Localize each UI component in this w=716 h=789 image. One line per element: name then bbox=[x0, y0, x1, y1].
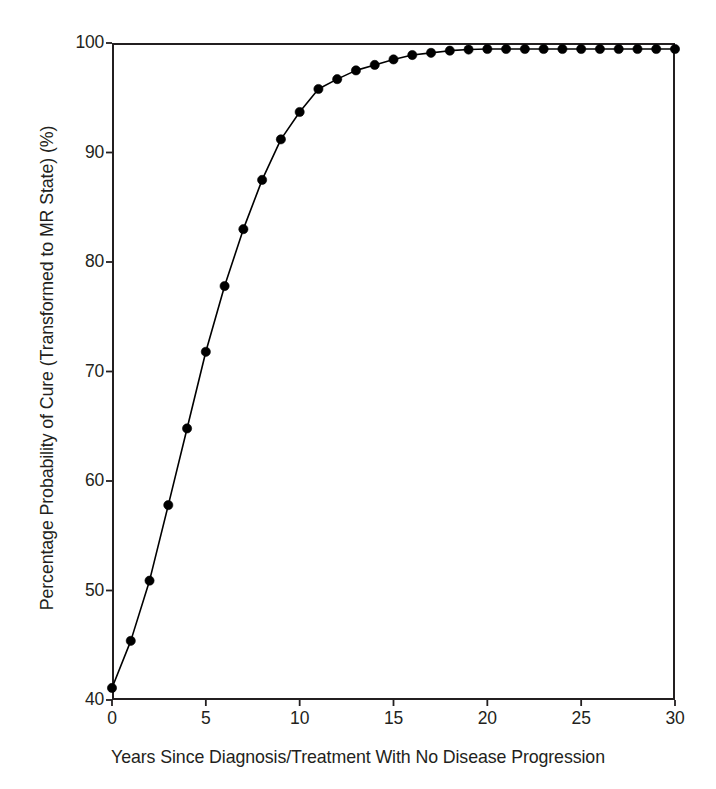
data-point-marker bbox=[333, 75, 342, 84]
data-point-marker bbox=[633, 44, 642, 53]
data-point-marker bbox=[258, 175, 267, 184]
tick-marks bbox=[106, 43, 675, 706]
data-point-marker bbox=[558, 44, 567, 53]
data-point-marker bbox=[164, 500, 173, 509]
data-point-marker bbox=[107, 683, 116, 692]
x-axis-tick-labels: 051015202530 bbox=[0, 710, 716, 736]
data-point-marker bbox=[520, 44, 529, 53]
data-point-marker bbox=[577, 44, 586, 53]
data-point-marker bbox=[652, 44, 661, 53]
data-point-marker bbox=[201, 347, 210, 356]
x-tick-label: 20 bbox=[457, 710, 517, 728]
x-tick-label: 30 bbox=[645, 710, 705, 728]
y-tick-label: 50 bbox=[62, 582, 104, 600]
y-tick-label: 100 bbox=[62, 34, 104, 52]
data-series-markers bbox=[107, 44, 679, 692]
data-point-marker bbox=[314, 84, 323, 93]
data-point-marker bbox=[276, 135, 285, 144]
x-tick-label: 15 bbox=[364, 710, 424, 728]
data-point-marker bbox=[426, 48, 435, 57]
x-tick-label: 0 bbox=[82, 710, 142, 728]
data-point-marker bbox=[126, 636, 135, 645]
data-series-line bbox=[112, 49, 675, 688]
data-point-marker bbox=[670, 44, 679, 53]
y-tick-label: 80 bbox=[62, 253, 104, 271]
y-tick-label: 40 bbox=[62, 691, 104, 709]
data-point-marker bbox=[408, 50, 417, 59]
y-tick-label: 70 bbox=[62, 363, 104, 381]
data-point-marker bbox=[445, 46, 454, 55]
data-point-marker bbox=[539, 44, 548, 53]
data-point-marker bbox=[220, 281, 229, 290]
data-point-marker bbox=[483, 44, 492, 53]
x-tick-label: 10 bbox=[270, 710, 330, 728]
data-point-marker bbox=[370, 60, 379, 69]
y-axis-tick-labels: 405060708090100 bbox=[52, 0, 104, 789]
data-point-marker bbox=[595, 44, 604, 53]
data-point-marker bbox=[295, 107, 304, 116]
data-point-marker bbox=[182, 424, 191, 433]
y-tick-label: 60 bbox=[62, 472, 104, 490]
x-axis-title: Years Since Diagnosis/Treatment With No … bbox=[0, 747, 716, 768]
data-point-marker bbox=[464, 45, 473, 54]
chart-figure: 405060708090100 051015202530 Years Since… bbox=[0, 0, 716, 789]
y-tick-label: 90 bbox=[62, 144, 104, 162]
chart-plot-svg bbox=[112, 43, 675, 700]
data-point-marker bbox=[389, 55, 398, 64]
data-point-marker bbox=[239, 225, 248, 234]
data-point-marker bbox=[614, 44, 623, 53]
data-point-marker bbox=[351, 66, 360, 75]
data-point-marker bbox=[502, 44, 511, 53]
x-tick-label: 5 bbox=[176, 710, 236, 728]
data-point-marker bbox=[145, 576, 154, 585]
x-tick-label: 25 bbox=[551, 710, 611, 728]
